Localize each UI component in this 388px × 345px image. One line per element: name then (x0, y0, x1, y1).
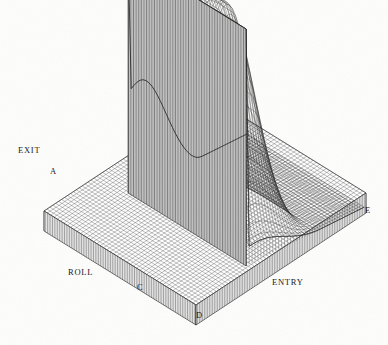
axis-label-exit: EXIT (18, 146, 40, 155)
surface-plot-figure (0, 0, 388, 345)
corner-label-c: C (137, 283, 143, 292)
axis-label-entry: ENTRY (272, 278, 304, 287)
corner-label-d: D (196, 311, 202, 320)
corner-label-a: A (50, 167, 56, 176)
axis-label-roll: ROLL (68, 268, 93, 277)
corner-label-e: E (365, 206, 370, 215)
